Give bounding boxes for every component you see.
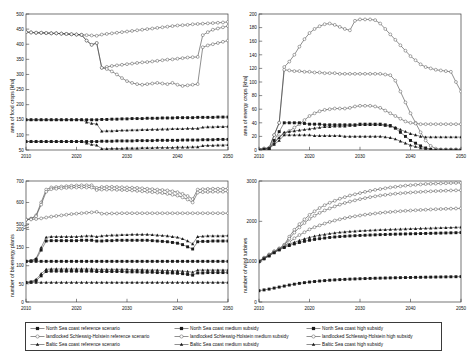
- svg-text:200: 200: [249, 12, 257, 17]
- plot-bioenergy-plants: 2010202020302040205005010015020050060070…: [0, 175, 234, 320]
- legend-item: Baltic Sea coast medium subsidy: [174, 341, 259, 348]
- legend-marker-square-filled: [30, 325, 45, 332]
- plot-energy-crops: 2010202020302040205002040608010012014016…: [233, 8, 467, 168]
- legend-label: landlocked Schleswig-Holstein medium sub…: [190, 334, 288, 339]
- legend-label: North Sea coast reference scenario: [46, 326, 120, 331]
- svg-text:2030: 2030: [122, 306, 133, 311]
- svg-text:300: 300: [16, 72, 24, 77]
- legend-item: Baltic Sea coast high subsidy: [306, 341, 383, 348]
- ylabel-bioenergy-plants: number of bioenergy plants: [9, 234, 15, 297]
- svg-text:120: 120: [249, 66, 257, 71]
- legend-label: North Sea coast high subsidy: [322, 326, 383, 331]
- legend-item: North Sea coast medium subsidy: [174, 325, 259, 332]
- panel-wind-turbines: number of wind turbines 2010202020302040…: [233, 175, 467, 320]
- svg-text:2050: 2050: [223, 306, 234, 311]
- svg-text:250: 250: [16, 87, 24, 92]
- svg-text:700: 700: [16, 179, 24, 184]
- svg-text:600: 600: [16, 200, 24, 205]
- svg-text:200: 200: [16, 227, 24, 232]
- svg-text:150: 150: [16, 117, 24, 122]
- svg-text:2010: 2010: [21, 306, 32, 311]
- svg-text:2040: 2040: [172, 306, 183, 311]
- svg-text:400: 400: [16, 42, 24, 47]
- legend-item: North Sea coast reference scenario: [30, 325, 120, 332]
- svg-text:2050: 2050: [223, 154, 234, 159]
- svg-text:2020: 2020: [71, 306, 82, 311]
- svg-text:200: 200: [16, 102, 24, 107]
- svg-text:100: 100: [249, 80, 257, 85]
- legend-item: North Sea coast high subsidy: [306, 325, 383, 332]
- legend-marker-triangle-filled: [30, 341, 45, 348]
- svg-text:3000: 3000: [247, 179, 258, 184]
- svg-text:2010: 2010: [254, 306, 265, 311]
- legend-marker-circle-open: [30, 333, 45, 340]
- svg-text:160: 160: [249, 39, 257, 44]
- ylabel-wind-turbines: number of wind turbines: [242, 238, 248, 293]
- svg-text:0: 0: [21, 300, 24, 305]
- svg-text:80: 80: [252, 93, 258, 98]
- legend-label: North Sea coast medium subsidy: [190, 326, 259, 331]
- svg-text:2040: 2040: [405, 306, 416, 311]
- svg-text:2030: 2030: [122, 154, 133, 159]
- svg-text:2040: 2040: [172, 154, 183, 159]
- svg-text:0: 0: [254, 148, 257, 153]
- plot-wind-turbines: 201020202030204020500100020003000: [233, 175, 467, 320]
- svg-text:2050: 2050: [456, 154, 467, 159]
- legend-item: landlocked Schleswig-Holstein medium sub…: [174, 333, 288, 340]
- svg-text:350: 350: [16, 57, 24, 62]
- svg-text:100: 100: [16, 263, 24, 268]
- svg-text:50: 50: [19, 282, 25, 287]
- panel-energy-crops: area of energy crops [kha] 2010202020302…: [233, 8, 467, 168]
- svg-text:2020: 2020: [304, 306, 315, 311]
- ylabel-food-crops: area of food crops [kha]: [9, 78, 15, 133]
- legend-marker-triangle-filled: [174, 341, 189, 348]
- legend-label: Baltic Sea coast medium subsidy: [190, 342, 259, 347]
- svg-text:150: 150: [16, 245, 24, 250]
- legend-marker-square-filled: [306, 325, 321, 332]
- svg-text:60: 60: [252, 107, 258, 112]
- svg-text:2040: 2040: [405, 154, 416, 159]
- svg-text:2050: 2050: [456, 306, 467, 311]
- svg-text:0: 0: [254, 300, 257, 305]
- svg-text:2000: 2000: [247, 219, 258, 224]
- svg-text:100: 100: [16, 133, 24, 138]
- svg-text:140: 140: [249, 53, 257, 58]
- svg-text:20: 20: [252, 134, 258, 139]
- legend-item: landlocked Schleswig-Holstein high subsi…: [306, 333, 413, 340]
- ylabel-energy-crops: area of energy crops [kha]: [242, 76, 248, 136]
- legend-label: landlocked Schleswig-Holstein reference …: [46, 334, 149, 339]
- svg-text:2020: 2020: [71, 154, 82, 159]
- svg-text:500: 500: [16, 12, 24, 17]
- svg-text:500: 500: [16, 222, 24, 227]
- svg-text:450: 450: [16, 27, 24, 32]
- plot-food-crops: 2010202020302040205050100150200250300350…: [0, 8, 234, 168]
- legend-label: landlocked Schleswig-Holstein high subsi…: [322, 334, 413, 339]
- svg-text:2010: 2010: [254, 154, 265, 159]
- svg-text:2030: 2030: [355, 306, 366, 311]
- svg-text:1000: 1000: [247, 259, 258, 264]
- svg-text:2030: 2030: [355, 154, 366, 159]
- legend-item: Baltic Sea coast reference scenario: [30, 341, 120, 348]
- legend-marker-square-filled: [174, 325, 189, 332]
- svg-text:40: 40: [252, 121, 258, 126]
- legend-label: Baltic Sea coast reference scenario: [46, 342, 120, 347]
- svg-text:2020: 2020: [304, 154, 315, 159]
- svg-text:180: 180: [249, 25, 257, 30]
- panel-bioenergy-plants: number of bioenergy plants 2010202020302…: [0, 175, 234, 320]
- figure-root: area of food crops [kha] 201020202030204…: [0, 0, 467, 361]
- scenario-legend: North Sea coast reference scenariolandlo…: [25, 322, 442, 351]
- legend-marker-circle-open: [306, 333, 321, 340]
- svg-text:50: 50: [19, 148, 25, 153]
- legend-label: Baltic Sea coast high subsidy: [322, 342, 383, 347]
- legend-item: landlocked Schleswig-Holstein reference …: [30, 333, 149, 340]
- legend-marker-circle-open: [174, 333, 189, 340]
- panel-food-crops: area of food crops [kha] 201020202030204…: [0, 8, 234, 168]
- legend-marker-triangle-filled: [306, 341, 321, 348]
- svg-text:2010: 2010: [21, 154, 32, 159]
